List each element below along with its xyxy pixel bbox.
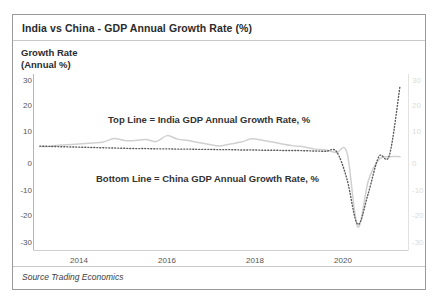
- annotation-india: Top Line = India GDP Annual Growth Rate,…: [108, 114, 310, 125]
- y-tick-label: -20: [12, 211, 32, 220]
- series-line-china: [40, 86, 400, 224]
- y-tick-label: 10: [12, 127, 32, 136]
- y-tick-label: 20: [12, 101, 32, 110]
- x-tick-label: 2014: [59, 256, 99, 265]
- y-tick-label: -30: [12, 238, 32, 247]
- source-divider: [13, 266, 425, 267]
- x-tick-label: 2020: [323, 256, 363, 265]
- annotation-china: Bottom Line = China GDP Annual Growth Ra…: [96, 173, 319, 184]
- y-tick-label-right: 30: [412, 76, 432, 85]
- y-tick-label-right: 0: [412, 159, 432, 168]
- y-tick-label-right: 10: [412, 127, 432, 136]
- source-label: Source Trading Economics: [22, 272, 123, 282]
- y-tick-label: -10: [12, 186, 32, 195]
- y-tick-label-right: 20: [412, 101, 432, 110]
- y-tick-label-right: -10: [412, 186, 432, 195]
- x-tick-label: 2018: [235, 256, 275, 265]
- y-tick-label-right: -20: [412, 211, 432, 220]
- x-tick-label: 2016: [147, 256, 187, 265]
- y-tick-label: 30: [12, 76, 32, 85]
- chart-screenshot: India vs China - GDP Annual Growth Rate …: [0, 0, 439, 306]
- y-tick-label: 0: [12, 159, 32, 168]
- y-tick-label-right: -30: [412, 238, 432, 247]
